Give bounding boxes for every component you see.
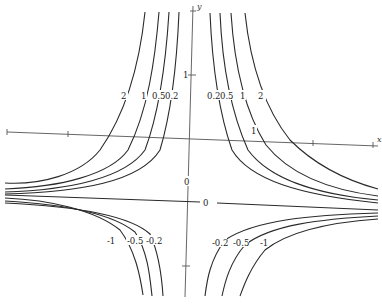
y-tick-label-1: 1: [183, 70, 188, 80]
contour-label: 0.2: [165, 91, 179, 101]
contours-upper-right: 0.2 0.5 1 2 1: [206, 13, 378, 203]
contour-label: -0.5: [127, 236, 143, 246]
contour-label: -1: [107, 236, 115, 246]
contour-label: 0.2: [207, 91, 221, 101]
y-axis: y 1: [182, 2, 202, 297]
x-axis: x: [7, 129, 382, 148]
contour-label: 1: [141, 91, 146, 101]
contour-label: -1: [260, 238, 268, 248]
contour-label: 0.5: [220, 91, 234, 101]
contours-lower-right: -0.2 -0.5 -1: [205, 213, 378, 296]
contour-label: 1: [251, 126, 256, 136]
origin-label: 0: [184, 177, 189, 187]
contour-label: -0.2: [146, 236, 162, 246]
contours-upper-left: 2 1 0.5 0.2: [5, 12, 179, 194]
contour-label: 0.5: [152, 91, 166, 101]
contour-label: -0.2: [212, 238, 228, 248]
x-axis-label: x: [377, 135, 382, 144]
contour-label: -0.5: [233, 238, 249, 248]
contours-lower-left: -1 -0.5 -0.2: [5, 198, 163, 296]
contour-label: 2: [258, 91, 263, 101]
y-axis-label: y: [196, 2, 202, 11]
zero-contour-label: 0: [203, 198, 208, 208]
contour-label: 2: [121, 91, 126, 101]
contour-plot: x y 1 0 0 2 1 0.5 0.2 0.: [0, 0, 382, 305]
contour-label: 1: [240, 91, 245, 101]
